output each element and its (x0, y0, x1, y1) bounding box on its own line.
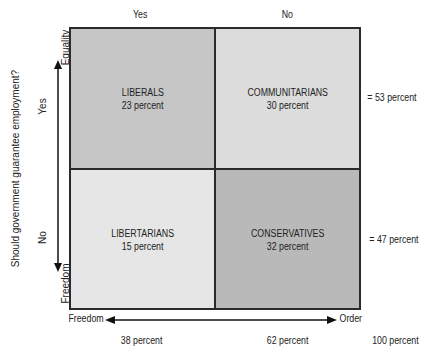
column-total-left: 38 percent (121, 335, 163, 346)
axis-label-freedom-horizontal: Freedom (68, 313, 103, 324)
column-total-right: 62 percent (267, 335, 309, 346)
column-label-yes: Yes (133, 9, 147, 20)
grand-total: 100 percent (372, 335, 418, 346)
column-label-no: No (282, 9, 293, 20)
horizontal-divider (69, 168, 361, 170)
row-label-yes: Yes (37, 92, 48, 122)
row-total-bottom: = 47 percent (369, 234, 418, 245)
y-question-label: Should government guarantee employment? (10, 59, 21, 279)
vertical-double-arrow-icon (52, 60, 64, 272)
row-total-top: = 53 percent (367, 92, 416, 103)
axis-label-order: Order (340, 313, 362, 324)
row-label-no: No (37, 223, 48, 253)
horizontal-double-arrow-icon (105, 315, 337, 325)
